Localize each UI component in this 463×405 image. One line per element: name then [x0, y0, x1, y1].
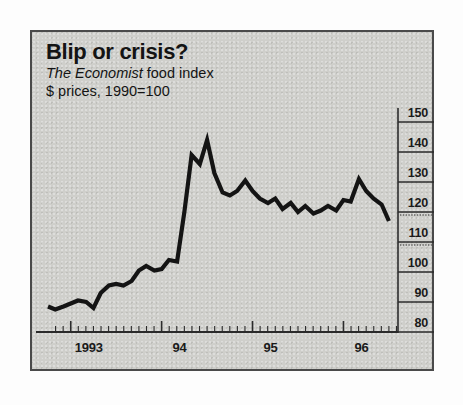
x-tick-label: 1993 — [75, 340, 103, 355]
y-tick-label: 150 — [394, 106, 428, 120]
y-tick-label: 130 — [394, 166, 428, 180]
y-tick-label: 100 — [394, 256, 428, 270]
x-tick-label: 95 — [264, 340, 278, 355]
y-tick-label: 120 — [394, 196, 428, 210]
figure-canvas: Blip or crisis? The Economist food index… — [0, 0, 463, 405]
y-tick-label: 110 — [394, 226, 428, 240]
y-tick-label: 140 — [394, 136, 428, 150]
chart-panel: Blip or crisis? The Economist food index… — [30, 30, 434, 371]
data-series-line — [48, 140, 389, 310]
y-tick-label: 90 — [394, 286, 428, 300]
x-tick-label: 94 — [173, 340, 187, 355]
line-chart-svg — [32, 32, 436, 373]
plot-area — [32, 32, 436, 373]
y-tick-label: 80 — [394, 316, 428, 330]
x-tick-label: 96 — [354, 340, 368, 355]
